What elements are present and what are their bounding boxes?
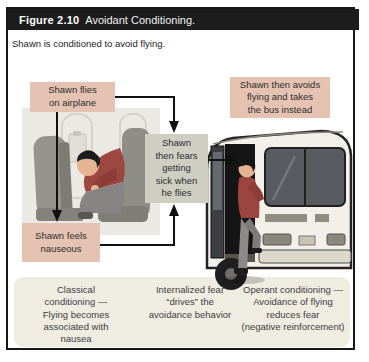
box-shawn-feels-nauseous: Shawn feels nauseous [22, 223, 100, 262]
figure-title-bar: Figure 2.10 Avoidant Conditioning. [8, 9, 359, 30]
bus-boarding-illustration [203, 118, 355, 301]
figure-label: Figure 2.10 [19, 14, 79, 26]
box-shawn-fears-getting-sick: Shawn then fears getting sick when he fl… [145, 134, 208, 203]
caption-internalized-fear: Internalized fear “drives” the avoidance… [136, 284, 244, 321]
caption-classical-conditioning: Classical conditioning — Flying becomes … [20, 284, 132, 346]
box-shawn-avoids-flying: Shawn then avoids flying and takes the b… [230, 77, 330, 118]
figure-subtitle: Shawn is conditioned to avoid flying. [12, 38, 165, 49]
figure-frame: Figure 2.10 Avoidant Conditioning. Shawn… [6, 7, 355, 350]
figure-title: Avoidant Conditioning. [85, 14, 195, 26]
caption-operant-conditioning: Operant conditioning — Avoidance of flyi… [234, 284, 352, 333]
airplane-passenger-illustration [22, 108, 160, 235]
box-shawn-flies-on-airplane: Shawn flies on airplane [30, 82, 115, 112]
